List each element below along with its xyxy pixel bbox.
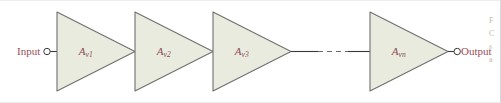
gain-label-subscript: v3 (242, 50, 249, 59)
output-label: Output (461, 46, 492, 57)
gain-label-stage-1: Av1 (79, 46, 93, 59)
amplifier-triangle-stage-n (370, 12, 448, 91)
gain-label-stage-n: Avn (392, 46, 406, 59)
caption-sliver-line: F (489, 14, 501, 27)
input-label: Input (17, 46, 40, 57)
cascade-diagram-svg (0, 0, 501, 103)
gain-label-base: A (392, 45, 399, 57)
output-terminal-icon (454, 48, 460, 54)
caption-sliver-line: C (489, 27, 501, 40)
amplifier-triangle-stage-3 (213, 12, 291, 91)
gain-label-subscript: v1 (86, 50, 93, 59)
caption-sliver-line: a (489, 53, 501, 66)
gain-label-stage-3: Av3 (235, 46, 249, 59)
input-terminal-icon (44, 48, 50, 54)
gain-label-base: A (79, 45, 86, 57)
amplifier-cascade-figure: Input Output Av1Av2Av3Avn FCsa (0, 0, 501, 103)
caption-sliver-line: s (489, 40, 501, 53)
amplifier-triangle-stage-2 (135, 12, 213, 91)
gain-label-base: A (157, 45, 164, 57)
gain-label-subscript: v2 (164, 50, 171, 59)
gain-label-stage-2: Av2 (157, 46, 171, 59)
amplifier-triangle-stage-1 (57, 12, 135, 91)
caption-edge-sliver: FCsa (489, 14, 501, 86)
gain-label-base: A (235, 45, 242, 57)
gain-label-subscript: vn (399, 50, 406, 59)
